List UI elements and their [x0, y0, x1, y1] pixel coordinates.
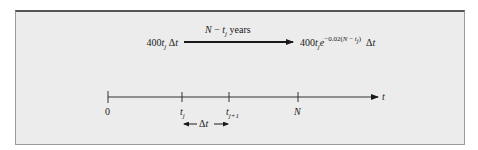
tick-label-0: 0: [105, 106, 110, 118]
left-expression: 400tj Δt: [147, 37, 178, 49]
axis-label-t: t: [382, 91, 385, 103]
tail: Δt: [169, 37, 178, 48]
interval-label: Δt: [199, 118, 208, 130]
sub: j: [183, 112, 185, 120]
tick-label-tj1: tj+1: [226, 106, 239, 118]
tail: Δt: [366, 37, 375, 48]
coef: 400: [300, 37, 315, 48]
arrow-label: N − tj years: [205, 24, 251, 36]
sub: j+1: [229, 112, 239, 120]
exp-close: ): [359, 35, 361, 43]
tick-label-N: N: [294, 106, 301, 118]
diagram-lines: [0, 0, 478, 150]
coef: 400: [147, 37, 162, 48]
exponent: −0.02(N − tj): [324, 35, 361, 43]
sub: j: [164, 43, 166, 51]
tick-label-tj: tj: [180, 106, 185, 118]
suffix: years: [227, 24, 251, 35]
right-expression: 400tje−0.02(N − tj) Δt: [300, 37, 375, 49]
